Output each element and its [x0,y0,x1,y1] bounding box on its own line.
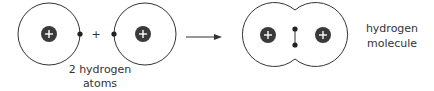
reaction-arrow-icon [186,34,222,40]
hydrogen-molecule [242,2,347,66]
electron-dot [111,31,116,36]
hydrogen-atom-2 [111,3,176,65]
nucleus-plus-icon [260,27,276,43]
nucleus-plus-icon [41,26,57,42]
nucleus-plus-icon [315,27,331,43]
reactants-label-line1: 2 hydrogen [69,63,132,76]
product-label-line2: molecule [367,37,417,50]
nucleus-plus-icon [135,26,151,42]
hydrogen-atom-1 [18,3,83,65]
electron-dot [77,31,82,36]
shared-electron-dot [292,26,297,31]
shared-electron-dot [292,42,297,47]
hydrogen-bonding-diagram: + 2 hydrogen atoms [0,0,434,91]
plus-sign: + [91,28,100,41]
product-label-line1: hydrogen [366,22,418,35]
reactants-label-line2: atoms [83,77,117,90]
